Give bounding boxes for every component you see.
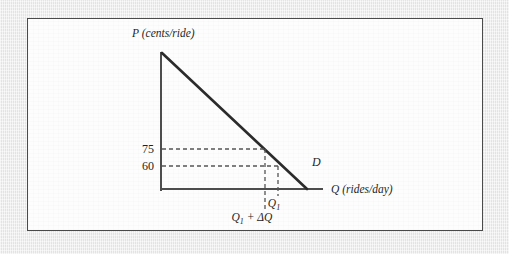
quantity-axis-label: Q (rides/day) [331,183,393,196]
price-axis-label: P (cents/ride) [131,27,195,40]
demand-curve [162,53,307,189]
figure-root: 75 60 P (cents/ride) Q (rides/day) D Q1 … [0,0,509,254]
figure-panel: 75 60 P (cents/ride) Q (rides/day) D Q1 … [27,18,483,231]
quantity-label-q1: Q1 [268,197,280,212]
quantity-label-q1-plus-dq: Q1 + ΔQ [232,211,274,226]
demand-curve-label: D [311,155,321,169]
demand-curve-plot: 75 60 P (cents/ride) Q (rides/day) D Q1 … [28,19,481,229]
quantity-label-q1-subscript: 1 [276,203,280,212]
quantity-label-q1-plus-dq-suffix: + ΔQ [244,211,273,223]
price-tick-60: 60 [142,159,154,173]
price-tick-75: 75 [142,142,154,156]
